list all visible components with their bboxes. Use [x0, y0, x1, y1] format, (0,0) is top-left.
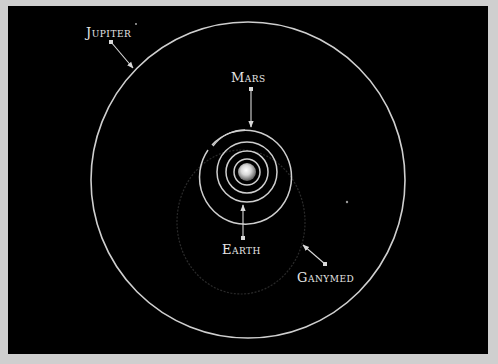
- diagram-canvas: Jupiter Mars Earth Ganymed: [8, 6, 488, 354]
- label-jupiter: Jupiter: [84, 25, 131, 40]
- star-dot: [346, 201, 348, 203]
- mars-orbit-inner-arc: [213, 130, 245, 146]
- jupiter-pointer: [109, 40, 133, 68]
- label-ganymed: Ganymed: [297, 270, 354, 285]
- sun: [238, 163, 256, 181]
- label-earth: Earth: [222, 242, 261, 257]
- label-mars: Mars: [231, 70, 266, 85]
- mars-pointer: [249, 87, 253, 127]
- ganymed-pointer: [303, 245, 327, 266]
- image-frame: Jupiter Mars Earth Ganymed: [0, 0, 498, 364]
- orbit-diagram: Jupiter Mars Earth Ganymed: [8, 6, 488, 354]
- earth-pointer: [241, 205, 245, 240]
- jupiter-mark: [135, 23, 137, 25]
